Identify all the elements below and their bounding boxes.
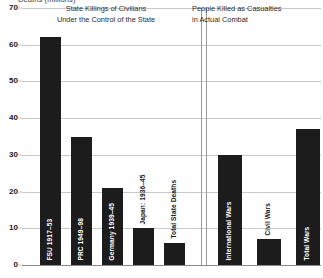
y-tick-label-30: 30 — [9, 151, 18, 159]
bar-label: Civil Wars — [266, 203, 273, 236]
y-tick-label-60: 60 — [9, 41, 18, 49]
bar-label: PRC 1949–98 — [78, 218, 85, 261]
gridline-30 — [22, 155, 321, 156]
y-tick-mark-50 — [18, 81, 22, 82]
y-tick-mark-10 — [18, 228, 22, 229]
bar — [257, 239, 281, 265]
bar-label: Total Wars — [305, 227, 312, 261]
y-tick-label-70: 70 — [9, 4, 18, 12]
panel-title-line-1: State Killings of Civilians — [36, 4, 176, 15]
y-tick-mark-60 — [18, 44, 22, 45]
bar-label: FSU 1917–53 — [47, 219, 54, 261]
y-tick-label-10: 10 — [9, 224, 18, 232]
bar-label: Japan: 1936–45 — [140, 174, 147, 224]
y-tick-label-40: 40 — [9, 114, 18, 122]
panel-title-line-2: in Actual Combat — [192, 15, 320, 26]
panel-divider-right — [206, 8, 207, 265]
gridline-60 — [22, 45, 321, 46]
panel-title-combat-casualties: People Killed as Casualties in Actual Co… — [192, 4, 320, 25]
panel-divider-left — [201, 8, 202, 265]
gridline-50 — [22, 81, 321, 82]
y-tick-mark-20 — [18, 191, 22, 192]
panel-title-state-killings: State Killings of Civilians Under the Co… — [36, 4, 176, 25]
bar — [133, 228, 154, 265]
y-tick-mark-0 — [18, 265, 22, 266]
bar — [164, 243, 185, 265]
y-tick-label-20: 20 — [9, 188, 18, 196]
bar-label: Total State Deaths — [171, 180, 178, 239]
y-tick-mark-30 — [18, 154, 22, 155]
gridline-40 — [22, 118, 321, 119]
y-tick-label-50: 50 — [9, 77, 18, 85]
bar-label: Germany 1939–45 — [109, 203, 116, 261]
bar-label: International Wars — [227, 202, 234, 261]
y-tick-mark-40 — [18, 118, 22, 119]
plot-area: 010203040506070 FSU 1917–53PRC 1949–98Ge… — [22, 8, 321, 265]
bar-chart: Deaths (millions) 010203040506070 FSU 19… — [0, 0, 323, 278]
y-tick-mark-70 — [18, 8, 22, 9]
panel-title-line-2: Under the Control of the State — [36, 15, 176, 26]
y-tick-label-0: 0 — [14, 261, 18, 269]
gridline-0 — [22, 265, 321, 266]
panel-title-line-1: People Killed as Casualties — [192, 4, 320, 15]
